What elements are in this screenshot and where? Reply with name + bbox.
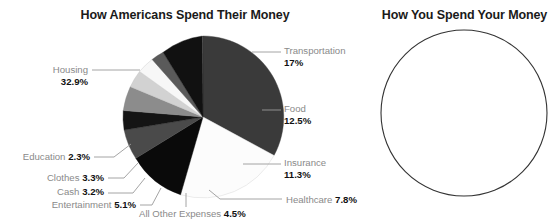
label-food: Food 12.5% xyxy=(284,103,311,126)
label-housing: Housing 32.9% xyxy=(0,64,88,87)
label-clothes-name: Clothes xyxy=(47,172,80,183)
label-clothes: Clothes 3.3% xyxy=(0,172,104,184)
label-cash-name: Cash xyxy=(57,186,79,197)
americans-spending-panel: How Americans Spend Their Money xyxy=(0,0,370,222)
label-food-pct: 12.5% xyxy=(284,115,311,127)
label-entertainment-pct: 5.1% xyxy=(114,199,136,210)
label-healthcare-name: Healthcare xyxy=(286,194,332,205)
label-all-other-expenses-pct: 4.5% xyxy=(224,208,246,219)
leader-line-entertainment xyxy=(140,188,161,205)
label-education-pct: 2.3% xyxy=(68,151,90,162)
your-spending-blank-pie xyxy=(370,0,559,222)
label-education-name: Education xyxy=(23,151,66,162)
blank-pie-circle[interactable] xyxy=(381,30,547,196)
leader-line-education xyxy=(94,144,131,157)
your-spending-panel: How You Spend Your Money xyxy=(370,0,559,222)
label-insurance: Insurance 11.3% xyxy=(284,157,326,180)
figure-root: How Americans Spend Their Money xyxy=(0,0,559,222)
label-insurance-pct: 11.3% xyxy=(284,169,326,181)
leader-line-clothes xyxy=(108,163,138,178)
label-all-other-expenses-name: All Other Expenses xyxy=(139,208,221,219)
label-transportation-pct: 17% xyxy=(284,57,346,69)
label-insurance-name: Insurance xyxy=(284,157,326,168)
label-all-other-expenses: All Other Expenses 4.5% xyxy=(139,208,246,220)
leader-line-cash xyxy=(108,178,145,193)
label-clothes-pct: 3.3% xyxy=(82,172,104,183)
label-entertainment-name: Entertainment xyxy=(52,199,112,210)
label-cash-pct: 3.2% xyxy=(82,186,104,197)
label-housing-pct: 32.9% xyxy=(0,76,88,88)
label-healthcare-pct: 7.8% xyxy=(335,194,357,205)
label-healthcare: Healthcare 7.8% xyxy=(286,194,357,206)
label-education: Education 2.3% xyxy=(0,151,90,163)
label-transportation: Transportation 17% xyxy=(284,45,346,68)
label-housing-name: Housing xyxy=(53,64,88,75)
label-entertainment: Entertainment 5.1% xyxy=(0,199,136,211)
label-food-name: Food xyxy=(284,103,306,114)
label-cash: Cash 3.2% xyxy=(0,186,104,198)
label-transportation-name: Transportation xyxy=(284,45,346,56)
